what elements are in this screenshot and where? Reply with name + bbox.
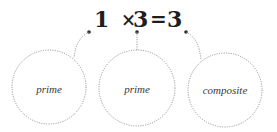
equation-term2: 3 [133, 6, 148, 32]
circle-label: prime [123, 83, 150, 95]
classification-circle-1: prime [12, 50, 86, 124]
connector-term1 [74, 32, 89, 58]
equation-result: 3 [167, 6, 182, 32]
circle-label: composite [203, 84, 248, 96]
classification-circle-3: composite [188, 53, 262, 127]
equation: 1 × 3 = 3 [94, 6, 182, 32]
equation-term1: 1 [94, 6, 109, 32]
connector-result [186, 32, 201, 60]
circle-label: prime [35, 83, 62, 95]
equation-equals: = [150, 7, 167, 31]
factor-diagram: 1 × 3 = 3 prime prime composite [0, 0, 277, 132]
connectors [74, 30, 201, 60]
classification-circle-2: prime [99, 50, 175, 126]
